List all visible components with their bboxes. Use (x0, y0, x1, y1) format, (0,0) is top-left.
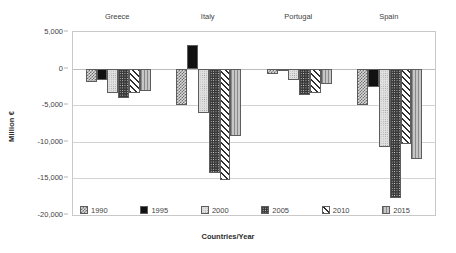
plot-area (72, 31, 436, 216)
category-label-italy: Italy (201, 12, 215, 21)
y-axis-tick-label: -10,000 (38, 136, 63, 145)
x-axis-title: Countries/Year (0, 232, 456, 241)
y-axis-tick-mark (64, 104, 68, 105)
bar-greece-1990 (86, 69, 97, 82)
bar-portugal-2015 (321, 69, 332, 84)
legend-item-2005[interactable]: 2005 (261, 206, 289, 215)
bar-italy-2015 (230, 69, 241, 136)
bar-greece-2010 (129, 69, 140, 93)
legend-label-2010: 2010 (333, 206, 350, 215)
bar-spain-2015 (411, 69, 422, 160)
category-label-portugal: Portugal (284, 12, 312, 21)
legend-swatch-icon-2010 (322, 206, 330, 214)
y-axis-tick-label: -15,000 (38, 173, 63, 182)
legend: 199019952000200520102015 (80, 203, 410, 217)
bar-italy-1995 (187, 45, 198, 68)
y-axis-tick-label: 0 (59, 63, 63, 72)
bar-greece-2005 (118, 69, 129, 98)
bar-portugal-1995 (278, 69, 289, 71)
bar-italy-1990 (176, 69, 187, 106)
bar-greece-1995 (97, 69, 108, 81)
bar-greece-2015 (140, 69, 151, 92)
category-label-greece: Greece (105, 12, 130, 21)
bar-portugal-1990 (267, 69, 278, 75)
category-axis-labels: GreeceItalyPortugalSpain (72, 12, 436, 28)
bar-greece-2000 (107, 69, 118, 94)
y-axis-tick-mark (64, 67, 68, 68)
y-axis-tick-label: 5,000 (44, 27, 63, 36)
bar-italy-2000 (198, 69, 209, 113)
legend-label-1990: 1990 (91, 206, 108, 215)
bar-portugal-2010 (310, 69, 321, 93)
legend-item-1990[interactable]: 1990 (80, 206, 108, 215)
legend-item-2000[interactable]: 2000 (201, 206, 229, 215)
y-axis-tick-label: -20,000 (38, 210, 63, 219)
bar-chart: Million € 5,0000-5,000-10,000-15,000-20,… (0, 0, 456, 253)
legend-label-2005: 2005 (272, 206, 289, 215)
legend-label-2000: 2000 (212, 206, 229, 215)
legend-swatch-icon-1995 (140, 206, 148, 214)
bar-portugal-2000 (288, 69, 299, 80)
category-label-spain: Spain (379, 12, 398, 21)
y-axis-tick-labels: 5,0000-5,000-10,000-15,000-20,000 (0, 31, 68, 216)
legend-label-2015: 2015 (393, 206, 410, 215)
bar-spain-2005 (390, 69, 401, 199)
legend-label-1995: 1995 (151, 206, 168, 215)
legend-item-2015[interactable]: 2015 (382, 206, 410, 215)
bar-spain-2000 (379, 69, 390, 147)
bar-italy-2005 (209, 69, 220, 174)
legend-swatch-icon-2015 (382, 206, 390, 214)
legend-swatch-icon-2005 (261, 206, 269, 214)
y-axis-tick-mark (64, 31, 68, 32)
bar-spain-1995 (368, 69, 379, 87)
legend-item-2010[interactable]: 2010 (322, 206, 350, 215)
legend-swatch-icon-2000 (201, 206, 209, 214)
legend-item-1995[interactable]: 1995 (140, 206, 168, 215)
y-axis-tick-mark (64, 140, 68, 141)
bar-spain-2010 (401, 69, 412, 144)
y-axis-tick-label: -5,000 (42, 100, 63, 109)
bar-italy-2010 (220, 69, 231, 180)
y-axis-tick-mark (64, 177, 68, 178)
bar-portugal-2005 (299, 69, 310, 95)
bars-layer (73, 32, 435, 215)
y-axis-tick-mark (64, 214, 68, 215)
x-axis-title-label: Countries/Year (202, 232, 255, 241)
bar-spain-1990 (357, 69, 368, 106)
legend-swatch-icon-1990 (80, 206, 88, 214)
